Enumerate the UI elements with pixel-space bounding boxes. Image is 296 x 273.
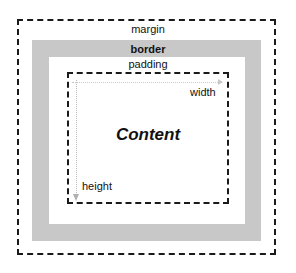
padding-label: padding <box>0 58 296 70</box>
height-label: height <box>82 180 112 192</box>
margin-label: margin <box>0 23 296 35</box>
height-arrow-icon <box>73 194 79 201</box>
width-arrow-line <box>72 82 222 83</box>
width-arrow-icon <box>218 79 223 85</box>
width-label: width <box>190 86 216 98</box>
border-label: border <box>0 43 296 55</box>
content-label: Content <box>67 125 229 145</box>
